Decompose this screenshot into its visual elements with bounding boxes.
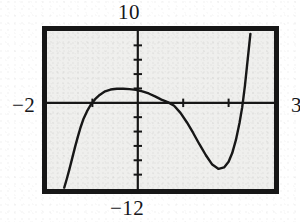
calculator-screen	[42, 26, 279, 194]
graph-plot	[47, 31, 274, 189]
window-ymin-label: −12	[110, 198, 144, 219]
window-ymax-label: 10	[118, 2, 140, 23]
function-curve	[64, 34, 250, 188]
window-xmax-label: 3	[291, 95, 300, 116]
window-xmin-label: −2	[12, 95, 35, 116]
